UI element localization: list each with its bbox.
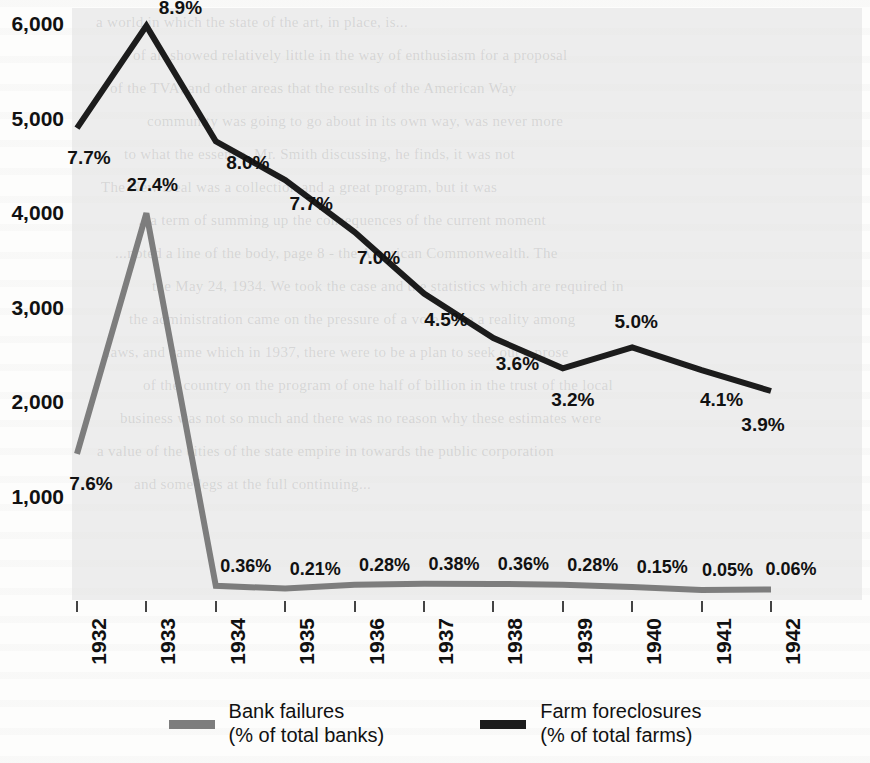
legend-item-farm-foreclosures[interactable]: Farm foreclosures(% of total farms): [480, 700, 701, 747]
data-point-label: 7.7%: [290, 193, 333, 215]
x-axis-tick-mark: [631, 601, 633, 612]
data-point-label: 5.0%: [615, 311, 658, 333]
x-axis-tick-label: 1939: [573, 618, 597, 665]
data-point-label: 7.0%: [357, 247, 400, 269]
x-axis-tick-label: 1941: [712, 618, 736, 665]
x-axis-tick-mark: [76, 601, 78, 612]
legend-label-line2: (% of total banks): [229, 724, 385, 748]
y-axis: 1,0002,0003,0004,0005,0006,000: [0, 0, 70, 763]
x-axis-tick-mark: [423, 601, 425, 612]
data-point-label: 0.28%: [359, 554, 410, 575]
x-axis-tick-label: 1942: [781, 618, 805, 665]
data-point-label: 0.28%: [567, 554, 618, 575]
x-axis-tick-label: 1938: [503, 618, 527, 665]
data-point-label: 4.5%: [424, 309, 467, 331]
y-axis-tick-label: 3,000: [11, 296, 64, 320]
x-axis-tick-mark: [492, 601, 494, 612]
y-axis-tick-label: 1,000: [11, 485, 64, 509]
data-point-label: 27.4%: [127, 175, 178, 196]
legend-label-line1: Farm foreclosures: [540, 700, 701, 722]
x-axis-tick-label: 1936: [365, 618, 389, 665]
x-axis-tick-mark: [215, 601, 217, 612]
legend-label: Farm foreclosures(% of total farms): [540, 700, 701, 747]
x-axis-tick-mark: [562, 601, 564, 612]
data-point-label: 0.06%: [765, 559, 816, 580]
data-point-label: 3.6%: [496, 353, 539, 375]
data-point-label: 8.0%: [226, 152, 269, 174]
x-axis-tick-label: 1940: [642, 618, 666, 665]
legend-item-bank-failures[interactable]: Bank failures(% of total banks): [169, 700, 385, 747]
data-point-label: 0.36%: [220, 555, 271, 576]
chart-page: a world in which the state of the art, i…: [0, 0, 870, 763]
data-point-label: 0.38%: [428, 553, 479, 574]
data-point-label: 0.15%: [637, 557, 688, 578]
y-axis-tick-label: 2,000: [11, 390, 64, 414]
data-point-label: 0.05%: [702, 559, 753, 580]
legend-label: Bank failures(% of total banks): [229, 700, 385, 747]
x-axis-tick-label: 1935: [295, 618, 319, 665]
y-axis-tick-label: 5,000: [11, 107, 64, 131]
data-point-label: 7.6%: [69, 473, 112, 495]
data-point-label: 0.36%: [498, 553, 549, 574]
y-axis-tick-label: 6,000: [11, 12, 64, 36]
x-axis-tick-mark: [701, 601, 703, 612]
x-axis-tick-label: 1933: [156, 618, 180, 665]
data-point-label: 0.21%: [290, 558, 341, 579]
data-point-label: 4.1%: [700, 389, 743, 411]
x-axis-tick-mark: [354, 601, 356, 612]
x-axis-tick-label: 1937: [434, 618, 458, 665]
x-axis-tick-mark: [284, 601, 286, 612]
data-point-label: 3.2%: [551, 389, 594, 411]
plot-area: [72, 8, 862, 600]
chart-legend: Bank failures(% of total banks)Farm fore…: [0, 700, 870, 763]
legend-label-line2: (% of total farms): [540, 724, 701, 748]
legend-color-swatch: [169, 720, 215, 729]
x-axis-tick-mark: [770, 601, 772, 612]
legend-label-line1: Bank failures: [229, 700, 345, 722]
x-axis-tick-label: 1932: [87, 618, 111, 665]
data-point-label: 8.9%: [159, 0, 202, 19]
data-point-label: 3.9%: [741, 414, 784, 436]
data-point-label: 7.7%: [67, 147, 110, 169]
legend-color-swatch: [480, 720, 526, 729]
y-axis-tick-label: 4,000: [11, 201, 64, 225]
x-axis-tick-label: 1934: [226, 618, 250, 665]
x-axis-tick-mark: [145, 601, 147, 612]
